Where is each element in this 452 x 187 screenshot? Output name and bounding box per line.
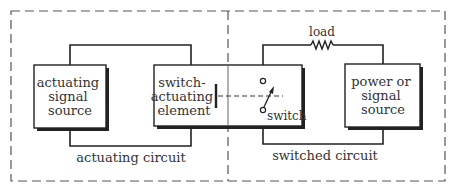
load-label: load xyxy=(309,25,335,39)
switched-circuit-caption: switched circuit xyxy=(272,148,378,163)
actuating-circuit-caption: actuating circuit xyxy=(76,150,186,165)
switch-label: switch xyxy=(267,109,307,123)
resistor-icon xyxy=(311,41,333,49)
switch-element-label: switch- actuating element xyxy=(151,75,218,118)
control-circuit-diagram: actuating signal source switch- actuatin… xyxy=(0,0,452,187)
